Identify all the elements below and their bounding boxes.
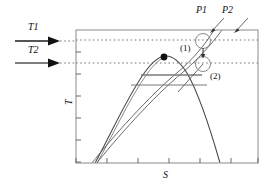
label-p1: P1 bbox=[196, 5, 207, 15]
ts-diagram-figure: T1 T2 P1 P2 (1) (2) T S bbox=[0, 0, 270, 192]
diagram-canvas bbox=[0, 0, 270, 192]
label-state-1: (1) bbox=[180, 44, 191, 53]
label-t2: T2 bbox=[28, 45, 39, 55]
label-t1: T1 bbox=[28, 22, 39, 32]
critical-point-dot bbox=[161, 54, 168, 61]
label-state-2: (2) bbox=[210, 72, 221, 81]
t1-arrow bbox=[15, 37, 76, 46]
label-p2: P2 bbox=[222, 5, 233, 15]
plot-frame bbox=[76, 30, 258, 163]
x-axis-label: S bbox=[163, 170, 168, 180]
y-axis-label: T bbox=[64, 99, 74, 105]
t2-arrow bbox=[15, 59, 76, 68]
